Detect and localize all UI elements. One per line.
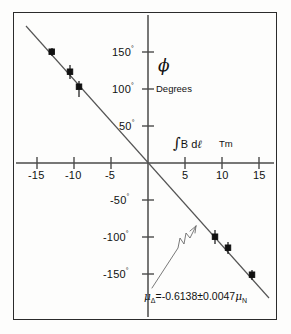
y-tick-label-150: 150° bbox=[112, 45, 134, 58]
degree-symbol: ° bbox=[131, 45, 134, 52]
nuclear-magneton-subscript: N bbox=[242, 297, 247, 304]
degree-symbol: ° bbox=[127, 193, 130, 200]
figure-panel: -15 -10 -5 5 10 15 150° 100° 50° -50° -1… bbox=[0, 0, 291, 334]
result-annotation: μΔ=-0.6138±0.0047μN bbox=[144, 291, 247, 304]
y-tick-label-150-value: 150 bbox=[112, 46, 131, 58]
y-tick-label--100-value: -100 bbox=[103, 231, 126, 243]
x-tick-label--5: -5 bbox=[105, 170, 115, 181]
data-marker bbox=[76, 84, 81, 89]
degree-symbol: ° bbox=[126, 230, 129, 237]
mu-symbol: μ bbox=[144, 290, 151, 302]
data-marker bbox=[212, 234, 217, 239]
y-tick-label--100: -100° bbox=[103, 230, 129, 243]
data-marker bbox=[67, 69, 72, 74]
y-tick-label-50-value: 50 bbox=[119, 120, 132, 132]
x-tick-label-10: 10 bbox=[216, 170, 229, 181]
data-point bbox=[212, 230, 217, 244]
degree-symbol: ° bbox=[126, 267, 129, 274]
y-tick-label--50-value: -50 bbox=[110, 194, 127, 206]
data-point bbox=[225, 242, 230, 254]
data-marker bbox=[225, 245, 230, 250]
data-marker bbox=[249, 272, 254, 277]
mu-error: 0.0047 bbox=[203, 290, 235, 302]
y-tick-label--150: -150° bbox=[103, 267, 129, 280]
x-axis-label: ∫B dℓ bbox=[173, 136, 202, 151]
data-point bbox=[49, 48, 54, 56]
data-point bbox=[249, 270, 254, 280]
y-axis-symbol-label: ϕ bbox=[158, 57, 170, 74]
y-tick-label-100-value: 100 bbox=[112, 83, 131, 95]
x-tick-label-15: 15 bbox=[253, 170, 266, 181]
degree-symbol: ° bbox=[131, 82, 134, 89]
data-marker bbox=[49, 49, 54, 54]
x-axis-label-text: B d bbox=[181, 138, 198, 150]
x-axis-label-ell: ℓ bbox=[197, 138, 202, 151]
annotation-arrow bbox=[152, 226, 196, 288]
data-series-measurements bbox=[49, 48, 255, 280]
x-tick-label-5: 5 bbox=[182, 170, 188, 181]
integral-icon: ∫ bbox=[173, 134, 181, 152]
degree-symbol: ° bbox=[132, 119, 135, 126]
y-tick-label-100: 100° bbox=[112, 82, 134, 95]
x-axis-units-label: Tm bbox=[219, 139, 233, 149]
y-tick-label--150-value: -150 bbox=[103, 268, 126, 280]
mu-unit-symbol: μ bbox=[235, 290, 242, 302]
mu-value: -0.6138 bbox=[162, 290, 198, 302]
axis-lines bbox=[16, 15, 274, 317]
y-tick-label--50: -50° bbox=[110, 193, 130, 206]
y-axis-units-label: Degrees bbox=[156, 84, 192, 94]
x-tick-label--10: -10 bbox=[65, 170, 82, 181]
y-tick-label-50: 50° bbox=[119, 119, 135, 132]
x-tick-label--15: -15 bbox=[28, 170, 45, 181]
plot-canvas bbox=[0, 0, 291, 334]
